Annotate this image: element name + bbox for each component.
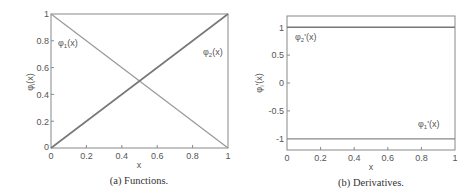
x-tick: 0.8 xyxy=(415,153,428,163)
x-tick: 0.2 xyxy=(80,151,93,161)
y-tick: 0.8 xyxy=(36,36,49,46)
y-tick: 0.2 xyxy=(36,117,49,127)
plot-functions: 0 0.2 0.4 0.6 0.8 1 x 0 0.2 0.4 0.6 0.8 … xyxy=(25,9,231,187)
y-tick: 1 xyxy=(279,23,284,33)
y-tick: -1 xyxy=(276,134,284,144)
phi1-derivative-annotation: φ1'(x) xyxy=(418,119,439,130)
y-tick: 0 xyxy=(44,142,49,152)
y-axis-label: φi'(x) xyxy=(254,73,265,92)
y-tick: 0.5 xyxy=(271,50,284,60)
y-axis: -1 -0.5 0 0.5 1 φi'(x) xyxy=(254,23,290,145)
x-axis-label: x xyxy=(369,162,374,172)
phi2-annotation: φ2(x) xyxy=(203,47,223,58)
y-tick: 0.4 xyxy=(36,90,49,100)
plot-derivatives: 0 0.2 0.4 0.6 0.8 1 x -1 -0.5 0 0.5 1 φi… xyxy=(254,16,458,189)
x-tick: 0.4 xyxy=(348,153,361,163)
x-tick: 0.6 xyxy=(151,151,164,161)
x-tick: 0.2 xyxy=(314,153,327,163)
phi2-derivative-annotation: φ2'(x) xyxy=(295,32,316,43)
x-axis: 0 0.2 0.4 0.6 0.8 1 x xyxy=(284,147,457,172)
caption-a: (a) Functions. xyxy=(110,175,168,187)
x-tick: 1 xyxy=(225,151,230,161)
y-axis: 0 0.2 0.4 0.6 0.8 1 φi(x) xyxy=(25,9,54,152)
x-axis: 0 0.2 0.4 0.6 0.8 1 x xyxy=(48,145,230,170)
y-tick: -0.5 xyxy=(268,106,284,116)
y-tick: 0.6 xyxy=(36,63,49,73)
figure: 0 0.2 0.4 0.6 0.8 1 x 0 0.2 0.4 0.6 0.8 … xyxy=(0,0,476,196)
x-tick: 0.4 xyxy=(116,151,129,161)
caption-b: (b) Derivatives. xyxy=(338,177,404,189)
y-tick: 1 xyxy=(44,9,49,19)
y-axis-label: φi(x) xyxy=(25,73,36,91)
x-tick: 0 xyxy=(48,151,53,161)
x-tick: 0.8 xyxy=(186,151,199,161)
y-tick: 0 xyxy=(279,78,284,88)
x-axis-label: x xyxy=(137,160,142,170)
x-tick: 0.6 xyxy=(382,153,395,163)
x-tick: 0 xyxy=(284,153,289,163)
phi1-annotation: φ1(x) xyxy=(58,38,78,49)
x-tick: 1 xyxy=(452,153,457,163)
